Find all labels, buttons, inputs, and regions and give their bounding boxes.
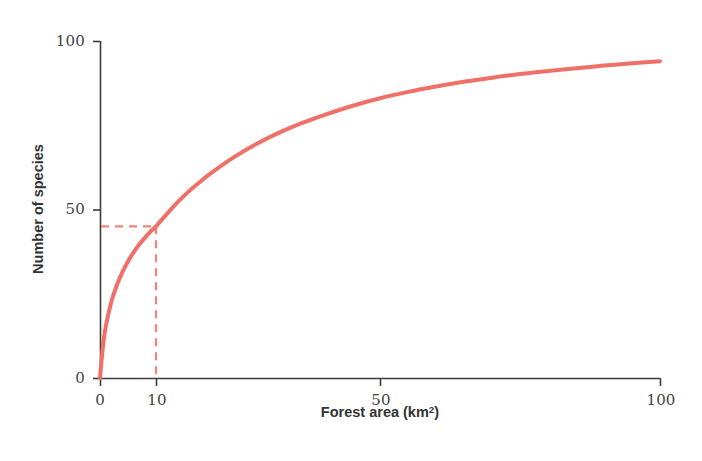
plot-canvas xyxy=(0,0,702,461)
x-axis-title-suffix: ) xyxy=(434,404,439,420)
species-area-chart: 100 50 0 0 10 50 100 Forest area (km2) N… xyxy=(0,0,702,461)
x-axis-title-text: Forest area (km xyxy=(321,404,429,420)
y-tick-label-0: 0 xyxy=(40,369,85,387)
x-tick-label-100: 100 xyxy=(646,391,675,409)
y-tick-label-50: 50 xyxy=(40,200,85,218)
x-axis-ticks xyxy=(101,379,661,387)
species-area-curve xyxy=(100,61,660,378)
x-tick-label-10: 10 xyxy=(147,391,167,409)
y-axis-ticks xyxy=(93,42,100,379)
x-axis-title-superscript: 2 xyxy=(429,404,434,415)
x-axis-title: Forest area (km2) xyxy=(321,404,439,420)
y-tick-label-100: 100 xyxy=(40,32,85,50)
x-tick-label-0: 0 xyxy=(95,391,105,409)
y-axis-title: Number of species xyxy=(30,144,46,274)
